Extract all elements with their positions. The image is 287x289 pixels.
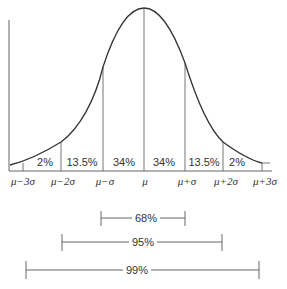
tick-label: μ+2σ bbox=[214, 175, 238, 187]
region-label: 2% bbox=[229, 156, 245, 168]
tick-label: μ+σ bbox=[178, 175, 196, 187]
tick-label: μ−2σ bbox=[51, 175, 75, 187]
range-label-68: 68% bbox=[132, 212, 160, 224]
region-label: 2% bbox=[37, 156, 53, 168]
range-label-95: 95% bbox=[129, 236, 157, 248]
region-label: 13.5% bbox=[66, 156, 97, 168]
tick-label: μ−σ bbox=[96, 175, 114, 187]
region-label: 13.5% bbox=[188, 156, 219, 168]
region-label: 34% bbox=[153, 156, 175, 168]
range-label-99: 99% bbox=[123, 264, 151, 276]
region-label: 34% bbox=[113, 156, 135, 168]
tick-label: μ−3σ bbox=[11, 175, 35, 187]
tick-label: μ bbox=[142, 175, 148, 187]
tick-label: μ+3σ bbox=[253, 175, 277, 187]
normal-curve bbox=[10, 8, 262, 165]
